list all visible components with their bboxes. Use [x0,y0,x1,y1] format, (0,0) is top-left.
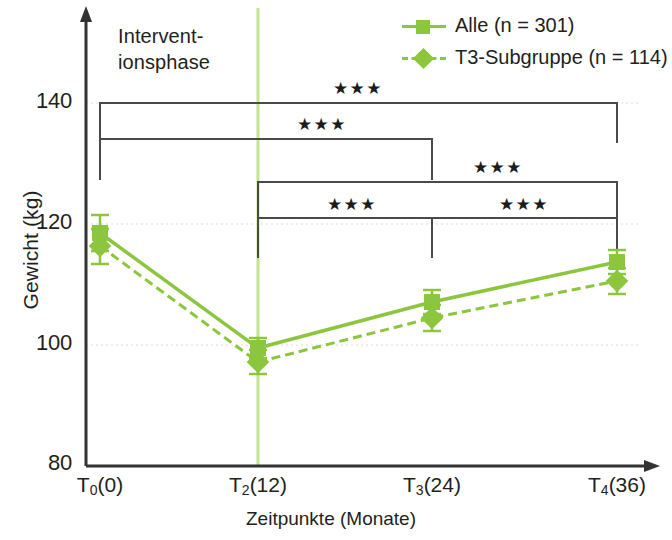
legend-item-t3-subgruppe[interactable]: T3-Subgruppe (n = 114) [402,46,668,69]
x-tick-t3-sub: 3 [416,482,424,498]
y-axis [80,6,92,466]
x-tick-t0-main: T [77,473,90,496]
y-axis-arrowhead [80,6,92,22]
intervention-phase-note-line1: Intervent- [118,24,210,50]
significance-brackets [100,103,617,258]
series-t3-subgruppe [89,229,629,374]
x-axis [86,460,660,472]
significance-label-t2-t4: ★★★ [473,157,523,177]
bracket-t2-t3 [258,218,432,258]
x-axis-arrowhead [644,460,660,472]
x-tick-t4-main: T [588,473,601,496]
y-tick-label-140: 140 [8,88,72,114]
x-tick-t4-paren: (36) [609,473,646,496]
intervention-phase-note-line2: ionsphase [118,50,210,76]
series-t3-subgruppe-errorbars [91,229,626,374]
series-alle-line [100,233,617,348]
legend-label-t3-subgruppe: T3-Subgruppe (n = 114) [455,46,668,69]
bracket-t2-t4 [258,182,617,222]
legend-diamond-marker-icon [402,48,446,68]
significance-label-t3-t4: ★★★ [499,194,549,214]
bracket-t0-t3 [100,139,432,180]
bracket-t0-t4 [100,103,617,143]
y-axis-title: Gewicht (kg) [19,175,43,325]
x-tick-t3-paren: (24) [424,473,461,496]
x-tick-t4-sub: 4 [601,482,609,498]
x-tick-t3-main: T [403,473,416,496]
x-tick-t2-sub: 2 [242,482,250,498]
legend-item-alle[interactable]: Alle (n = 301) [402,14,668,37]
x-tick-label-t2: T2(12) [198,473,318,498]
x-axis-title: Zeitpunkte (Monate) [0,508,662,530]
legend-square-marker-icon [402,16,446,36]
significance-label-t2-t3: ★★★ [327,194,377,214]
chart-legend: Alle (n = 301) T3-Subgruppe (n = 114) [402,14,668,69]
legend-label-alle: Alle (n = 301) [455,14,575,37]
significance-label-t0-t3: ★★★ [297,114,347,134]
bracket-t3-t4 [432,218,617,258]
y-tick-label-100: 100 [8,330,72,356]
intervention-phase-note: Intervent- ionsphase [118,24,210,75]
x-tick-label-t0: T0(0) [40,473,160,498]
significance-label-t0-t4: ★★★ [333,78,383,98]
x-tick-t2-main: T [229,473,242,496]
x-tick-t0-paren: (0) [97,473,123,496]
x-tick-t2-paren: (12) [250,473,287,496]
x-tick-label-t4: T4(36) [557,473,672,498]
x-tick-label-t3: T3(24) [372,473,492,498]
series-t3-subgruppe-markers [89,235,629,374]
